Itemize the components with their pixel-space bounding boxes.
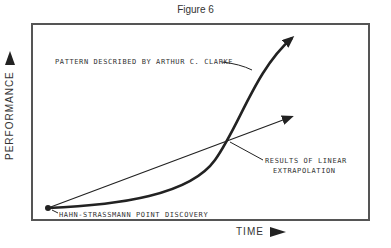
linear-annotation-line2: EXTRAPOLATION [273, 167, 336, 175]
linear-line [48, 117, 291, 208]
linear-annotation-line1: RESULTS OF LINEAR [265, 157, 347, 165]
origin-dot [45, 205, 51, 211]
origin-annotation: HAHN-STRASSMANN POINT DISCOVERY [59, 211, 208, 219]
clarke-annotation: PATTERN DESCRIBED BY ARTHUR C. CLARKE [55, 58, 233, 66]
